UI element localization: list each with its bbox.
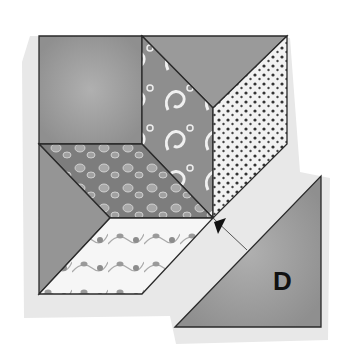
piece-label-d: D (273, 266, 292, 296)
quilt-block-illustration: D (0, 0, 345, 358)
top-left-square (39, 36, 142, 144)
